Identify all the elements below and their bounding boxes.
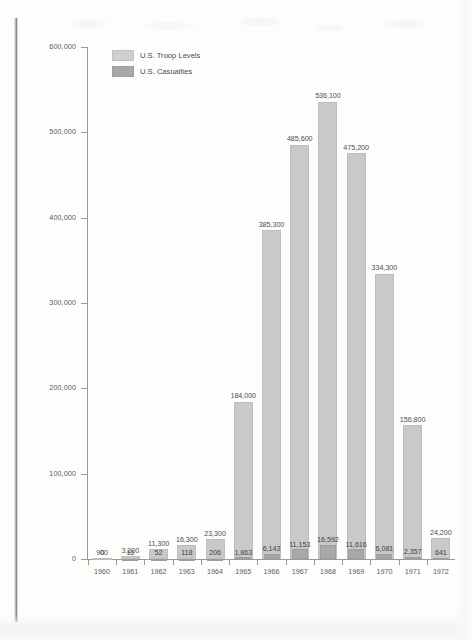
y-axis-tick — [81, 388, 87, 389]
bar-troop-levels — [347, 153, 366, 559]
bar-chart: 0100,000200,000300,000400,000500,000600,… — [0, 0, 472, 640]
legend-swatch-icon — [112, 50, 134, 61]
bar-casualties — [433, 558, 449, 560]
legend-label: U.S. Casualties — [140, 67, 192, 76]
bar-label-troop-levels: 485,600 — [276, 134, 324, 143]
x-axis-tick — [427, 559, 428, 565]
bar-casualties — [264, 554, 280, 559]
bar-label-troop-levels: 385,300 — [248, 220, 296, 229]
x-axis-tick — [116, 559, 117, 565]
bar-label-troop-levels: 475,200 — [332, 143, 380, 152]
bar-troop-levels — [234, 402, 253, 559]
bar-troop-levels — [262, 230, 281, 559]
y-axis-tick-label: 0 — [72, 554, 76, 563]
bar-casualties — [235, 557, 251, 559]
legend-label: U.S. Troop Levels — [140, 51, 200, 60]
x-axis-tick — [399, 559, 400, 565]
y-axis-tick-label: 300,000 — [49, 298, 76, 307]
legend-swatch-icon — [112, 66, 134, 77]
bar-casualties — [179, 559, 195, 561]
bar-label-troop-levels: 536,100 — [304, 91, 352, 100]
page-right-edge — [454, 0, 472, 640]
bar-label-troop-levels: 156,800 — [389, 415, 437, 424]
bar-label-troop-levels: 23,300 — [191, 529, 239, 538]
y-axis-tick — [81, 559, 87, 560]
bar-label-troop-levels: 334,300 — [360, 263, 408, 272]
y-axis-tick — [81, 47, 87, 48]
y-axis-tick-label: 400,000 — [49, 213, 76, 222]
bar-casualties — [207, 559, 223, 561]
bar-troop-levels — [403, 425, 422, 559]
y-axis-tick — [81, 132, 87, 133]
x-axis-tick — [257, 559, 258, 565]
y-axis-tick-label: 500,000 — [49, 127, 76, 136]
bar-casualties — [292, 549, 308, 559]
legend-item: U.S. Casualties — [112, 65, 200, 78]
bar-casualties — [122, 559, 138, 561]
scanned-page: 0100,000200,000300,000400,000500,000600,… — [0, 0, 472, 640]
y-axis-tick-label: 100,000 — [49, 469, 76, 478]
y-axis-line — [87, 47, 88, 559]
bar-troop-levels — [290, 145, 309, 559]
bar-label-troop-levels: 184,000 — [219, 391, 267, 400]
x-axis-tick — [314, 559, 315, 565]
x-axis-tick — [370, 559, 371, 565]
chart-legend: U.S. Troop LevelsU.S. Casualties — [112, 49, 200, 81]
x-axis-tick — [88, 559, 89, 565]
bar-troop-levels — [318, 102, 337, 559]
y-axis-tick — [81, 218, 87, 219]
x-axis-tick — [144, 559, 145, 565]
page-bottom-edge — [0, 614, 472, 640]
legend-item: U.S. Troop Levels — [112, 49, 200, 62]
y-axis-tick-label: 200,000 — [49, 383, 76, 392]
x-axis-tick — [201, 559, 202, 565]
bar-troop-levels — [93, 558, 112, 560]
x-axis-tick — [342, 559, 343, 565]
bar-casualties — [151, 559, 167, 561]
x-axis-tick — [286, 559, 287, 565]
y-axis-tick — [81, 474, 87, 475]
x-axis-tick — [173, 559, 174, 565]
y-axis-tick-label: 600,000 — [49, 42, 76, 51]
bar-casualties — [405, 557, 421, 559]
x-axis-tick — [229, 559, 230, 565]
y-axis-tick — [81, 303, 87, 304]
